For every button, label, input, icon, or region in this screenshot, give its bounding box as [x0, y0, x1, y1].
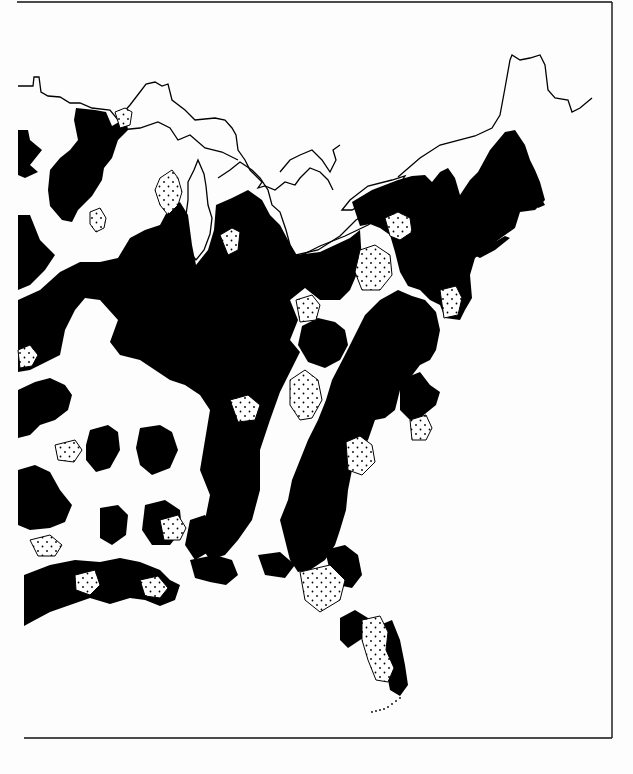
frame — [17, 2, 612, 738]
solid-regions — [18, 108, 545, 696]
florida-keys — [371, 697, 401, 713]
map-figure — [0, 0, 633, 774]
map-canvas — [0, 0, 633, 774]
